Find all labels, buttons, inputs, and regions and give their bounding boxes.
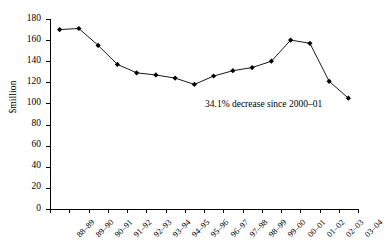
- x-tick-mark: [50, 209, 51, 213]
- x-tick-mark: [69, 209, 70, 213]
- x-tick-mark: [166, 209, 167, 213]
- chart-annotation: 34.1% decrease since 2000–01: [205, 99, 322, 109]
- x-tick-mark: [339, 209, 340, 213]
- x-tick-label: 96–97: [228, 217, 250, 239]
- x-tick-label: 01–02: [324, 217, 346, 239]
- x-tick-mark: [89, 209, 90, 213]
- x-tick-mark: [146, 209, 147, 213]
- x-tick-mark: [223, 209, 224, 213]
- data-point: [173, 76, 178, 81]
- y-tick-label: 0: [36, 203, 41, 213]
- x-tick-label: 94–95: [189, 217, 211, 239]
- x-tick-label: 98–99: [266, 217, 288, 239]
- x-tick-mark: [243, 209, 244, 213]
- x-tick-label: 89–90: [93, 217, 115, 239]
- data-point: [250, 65, 255, 70]
- x-tick-mark: [262, 209, 263, 213]
- data-point: [57, 27, 62, 32]
- data-point: [307, 41, 312, 46]
- x-tick-mark: [185, 209, 186, 213]
- data-point: [211, 73, 216, 78]
- y-tick-label: 140: [27, 55, 41, 65]
- x-tick-mark: [300, 209, 301, 213]
- x-tick-label: 03–04: [363, 217, 385, 239]
- x-tick-label: 93–94: [170, 217, 192, 239]
- y-tick-label: 180: [27, 13, 41, 23]
- x-tick-label: 92–93: [151, 217, 173, 239]
- data-series: [50, 19, 358, 209]
- x-tick-mark: [281, 209, 282, 213]
- x-tick-label: 97–98: [247, 217, 269, 239]
- y-tick-label: 120: [27, 76, 41, 86]
- x-tick-mark: [127, 209, 128, 213]
- y-tick-label: 60: [32, 139, 42, 149]
- data-point: [134, 70, 139, 75]
- x-tick-label: 99–00: [286, 217, 308, 239]
- y-tick-label: 100: [27, 97, 41, 107]
- x-tick-mark: [204, 209, 205, 213]
- x-tick-label: 88–89: [74, 217, 96, 239]
- data-point: [153, 72, 158, 77]
- series-markers: [57, 26, 351, 101]
- data-point: [192, 82, 197, 87]
- x-tick-label: 95–96: [209, 217, 231, 239]
- y-tick-label: 20: [32, 181, 42, 191]
- series-line: [60, 29, 349, 99]
- y-tick-label: 40: [32, 160, 42, 170]
- x-tick-mark: [108, 209, 109, 213]
- y-tick-label: 160: [27, 34, 41, 44]
- x-tick-mark: [358, 209, 359, 213]
- y-tick-label: 80: [32, 118, 42, 128]
- x-tick-label: 91–92: [132, 217, 154, 239]
- plot-area: 020406080100120140160180 88–8989–9090–91…: [50, 19, 358, 209]
- data-point: [230, 68, 235, 73]
- x-tick-label: 90–91: [112, 217, 134, 239]
- x-tick-label: 00–01: [305, 217, 327, 239]
- x-tick-mark: [320, 209, 321, 213]
- x-tick-label: 02–03: [343, 217, 365, 239]
- y-axis-title: $million: [8, 62, 18, 132]
